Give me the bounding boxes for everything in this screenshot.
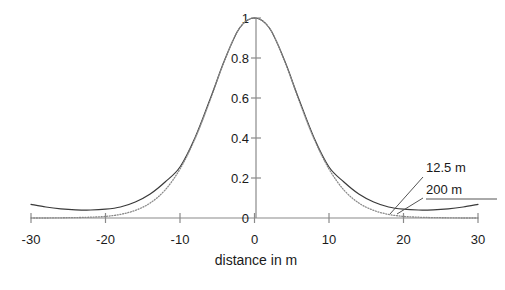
x-axis-title: distance in m: [215, 252, 297, 268]
y-tick-label: 0.8: [231, 51, 249, 66]
x-tick-label: 10: [322, 232, 336, 247]
y-tick-label: 0.2: [231, 171, 249, 186]
x-tick-label: -10: [171, 232, 190, 247]
x-tick-label: -20: [96, 232, 115, 247]
x-tick-label: -30: [22, 232, 41, 247]
annotation-label: 200 m: [426, 182, 462, 197]
y-tick-label: 0.6: [231, 91, 249, 106]
x-tick-label: 20: [396, 232, 410, 247]
y-tick-label: 0: [242, 211, 249, 226]
x-tick-label: 0: [251, 232, 258, 247]
chart-canvas: -30-20-100102030 00.20.40.60.81 12.5 m20…: [0, 0, 505, 290]
y-tick-label: 0.4: [231, 131, 249, 146]
chart-figure: -30-20-100102030 00.20.40.60.81 12.5 m20…: [0, 0, 505, 290]
annotation-label: 12.5 m: [426, 160, 466, 175]
x-tick-label: 30: [471, 232, 485, 247]
